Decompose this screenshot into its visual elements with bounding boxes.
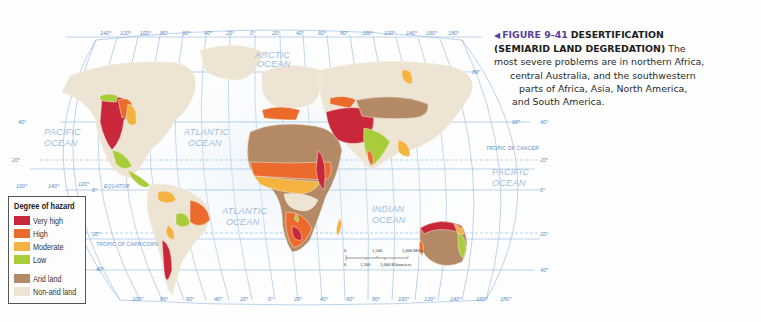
svg-text:40°: 40° (18, 119, 27, 125)
figure-number: FIGURE 9-41 (502, 29, 568, 40)
caption-text-2: The (668, 43, 685, 54)
svg-text:OCEAN: OCEAN (44, 138, 78, 148)
hazard-legend: Degree of hazard Very high High Moderate… (8, 196, 86, 304)
svg-text:0°: 0° (540, 187, 546, 193)
svg-text:80°: 80° (340, 30, 349, 36)
caption-line-4: central Australia, and the southwestern (494, 69, 754, 82)
svg-text:ATLANTIC: ATLANTIC (221, 206, 267, 216)
svg-text:100°: 100° (132, 296, 144, 302)
svg-text:160°: 160° (476, 296, 488, 302)
svg-text:80°: 80° (160, 30, 169, 36)
svg-text:40°: 40° (204, 30, 213, 36)
svg-text:60°: 60° (186, 296, 195, 302)
caption-line-3: most severe problems are in northern Afr… (494, 55, 754, 68)
bottom-longitude-labels: 100° 80° 60° 40° 20° 0° 20° 40° 60° 80° … (132, 296, 512, 302)
svg-text:TROPIC OF CANCER: TROPIC OF CANCER (486, 145, 539, 151)
legend-item-low: Low (14, 253, 80, 266)
legend-title: Degree of hazard (14, 201, 72, 211)
svg-text:160°: 160° (426, 30, 438, 36)
svg-text:140°: 140° (406, 30, 418, 36)
svg-text:20°: 20° (293, 296, 303, 302)
legend-label: Low (33, 255, 46, 265)
svg-text:100°: 100° (140, 30, 152, 36)
swatch-very-high (14, 216, 30, 225)
svg-text:60°: 60° (182, 30, 191, 36)
legend-item-very-high: Very high (14, 214, 80, 227)
svg-text:100°: 100° (398, 296, 410, 302)
svg-text:20°: 20° (225, 30, 235, 36)
svg-text:80°: 80° (372, 296, 381, 302)
figure-title-2: (SEMIARID LAND DEGREDATION) (494, 43, 665, 54)
svg-text:100°: 100° (362, 30, 374, 36)
svg-text:60°: 60° (318, 30, 327, 36)
svg-text:80°: 80° (472, 69, 481, 75)
svg-text:OCEAN: OCEAN (372, 215, 406, 225)
svg-text:ATLANTIC: ATLANTIC (183, 127, 229, 137)
svg-text:0°: 0° (92, 187, 98, 193)
svg-text:120°: 120° (424, 296, 436, 302)
svg-text:0°: 0° (250, 30, 256, 36)
svg-text:40°: 40° (540, 119, 549, 125)
figure-title-1: DESERTIFICATION (571, 29, 664, 40)
swatch-low (14, 255, 30, 264)
svg-text:PACIFIC: PACIFIC (44, 127, 81, 137)
svg-text:20°: 20° (539, 157, 549, 163)
swatch-non-arid-land (14, 287, 30, 296)
legend-label: Non-arid land (33, 287, 76, 297)
svg-text:0°: 0° (268, 296, 274, 302)
svg-text:180°: 180° (448, 30, 460, 36)
legend-item-high: High (14, 227, 80, 240)
svg-text:OCEAN: OCEAN (188, 138, 222, 148)
svg-text:40°: 40° (214, 296, 223, 302)
svg-text:20°: 20° (11, 157, 21, 163)
svg-text:TROPIC OF CAPRICORN: TROPIC OF CAPRICORN (96, 241, 159, 247)
svg-text:60°: 60° (512, 119, 521, 125)
svg-text:80°: 80° (160, 296, 169, 302)
legend-item-non-arid-land: Non-arid land (14, 285, 80, 298)
legend-label: Moderate (33, 242, 64, 252)
svg-text:60°: 60° (346, 296, 355, 302)
svg-text:OCEAN: OCEAN (226, 217, 260, 227)
svg-text:160°: 160° (16, 183, 28, 189)
swatch-arid-land (14, 274, 30, 283)
svg-text:120°: 120° (120, 30, 132, 36)
svg-text:EQUATOR: EQUATOR (104, 183, 130, 189)
svg-text:OCEAN: OCEAN (492, 178, 526, 188)
caption-line-6: and South America. (494, 95, 754, 108)
svg-text:120°: 120° (384, 30, 396, 36)
svg-text:OCEAN: OCEAN (257, 59, 291, 69)
legend-label: High (33, 229, 48, 239)
svg-text:40°: 40° (296, 30, 305, 36)
legend-item-arid-land: Arid land (14, 272, 80, 285)
svg-text:140°: 140° (100, 30, 112, 36)
svg-text:20°: 20° (91, 231, 101, 237)
svg-text:40°: 40° (320, 296, 329, 302)
arrow-left-icon: ◀ (494, 31, 500, 40)
svg-text:40°: 40° (540, 267, 549, 273)
svg-text:120°: 120° (78, 181, 90, 187)
legend-label: Arid land (33, 274, 62, 284)
caption-line-2: (SEMIARID LAND DEGREDATION) The (494, 42, 754, 55)
legend-item-moderate: Moderate (14, 240, 80, 253)
svg-text:140°: 140° (48, 183, 60, 189)
svg-text:INDIAN: INDIAN (372, 204, 405, 214)
caption-line-5: parts of Africa, Asia, North America, (494, 82, 754, 95)
svg-text:20°: 20° (539, 231, 549, 237)
swatch-high (14, 229, 30, 238)
svg-text:20°: 20° (239, 296, 249, 302)
svg-text:40°: 40° (96, 266, 105, 272)
swatch-moderate (14, 242, 30, 251)
legend-label: Very high (33, 216, 63, 226)
svg-text:180°: 180° (500, 296, 512, 302)
caption-line-1: ◀FIGURE 9-41 DESERTIFICATION (494, 28, 754, 42)
svg-text:140°: 140° (450, 296, 462, 302)
figure-caption: ◀FIGURE 9-41 DESERTIFICATION (SEMIARID L… (494, 28, 754, 108)
svg-text:20°: 20° (271, 30, 281, 36)
svg-text:PACIFIC: PACIFIC (492, 167, 529, 177)
